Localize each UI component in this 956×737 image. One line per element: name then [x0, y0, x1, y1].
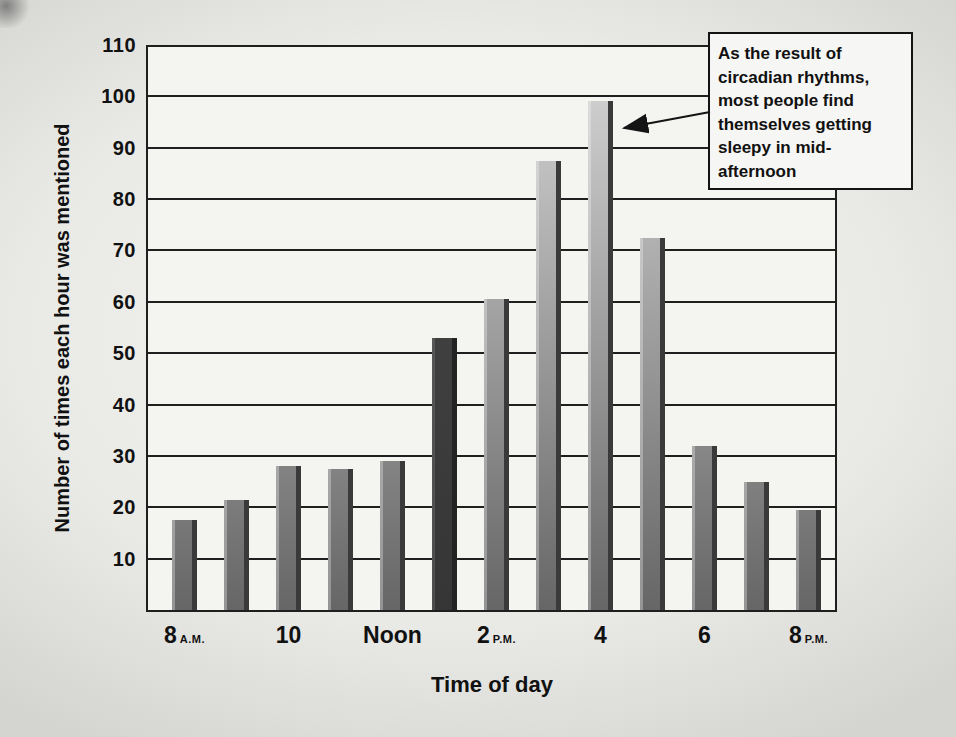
x-tick-label-suffix: P.M. [493, 633, 516, 645]
bar [172, 520, 197, 610]
bar [224, 500, 249, 610]
x-tick-label-suffix: P.M. [805, 633, 828, 645]
x-tick-label: 8P.M. [789, 622, 828, 649]
annotation-line: themselves getting [718, 113, 905, 137]
gridline [148, 198, 835, 200]
bar [744, 482, 769, 610]
x-axis-title: Time of day [431, 672, 553, 698]
y-tick-label: 50 [56, 341, 136, 365]
x-tick-label: 2P.M. [477, 622, 516, 649]
y-tick-label: 40 [56, 393, 136, 417]
x-tick-label: 4 [594, 622, 607, 649]
y-tick-label: 60 [56, 290, 136, 314]
annotation-line: sleepy in mid- [718, 136, 905, 160]
y-tick-label: 70 [56, 238, 136, 262]
x-tick-label-text: 10 [276, 622, 302, 648]
y-axis-title: Number of times each hour was mentioned [51, 124, 74, 533]
y-tick-label: 10 [56, 547, 136, 571]
x-tick-label-text: 2 [477, 622, 490, 648]
bar [276, 466, 301, 610]
annotation-line: afternoon [718, 160, 905, 184]
bar [588, 101, 613, 610]
x-tick-label: 8A.M. [164, 622, 205, 649]
annotation-line: circadian rhythms, [718, 66, 905, 90]
y-tick-label: 20 [56, 495, 136, 519]
chart-page: Number of times each hour was mentioned … [0, 0, 956, 737]
annotation-line: As the result of [718, 42, 905, 66]
x-tick-label-text: 4 [594, 622, 607, 648]
x-tick-label-text: 8 [164, 622, 177, 648]
x-tick-label: 10 [276, 622, 302, 649]
x-tick-label-text: 6 [698, 622, 711, 648]
x-tick-label: Noon [363, 622, 422, 649]
bar [380, 461, 405, 610]
annotation-box: As the result ofcircadian rhythms,most p… [708, 32, 913, 190]
x-tick-label-text: Noon [363, 622, 422, 648]
y-tick-label: 30 [56, 444, 136, 468]
bar [328, 469, 353, 610]
x-tick-label-text: 8 [789, 622, 802, 648]
bar [432, 338, 457, 610]
bar [484, 299, 509, 610]
bar [796, 510, 821, 610]
annotation-arrow-icon [612, 103, 714, 137]
gridline [148, 249, 835, 251]
bar [640, 238, 665, 610]
y-tick-label: 80 [56, 187, 136, 211]
x-tick-label: 6 [698, 622, 711, 649]
x-tick-label-suffix: A.M. [180, 633, 205, 645]
bar [536, 161, 561, 610]
y-tick-label: 90 [56, 136, 136, 160]
annotation-line: most people find [718, 89, 905, 113]
y-tick-label: 110 [56, 33, 136, 57]
bar [692, 446, 717, 610]
y-tick-label: 100 [56, 84, 136, 108]
